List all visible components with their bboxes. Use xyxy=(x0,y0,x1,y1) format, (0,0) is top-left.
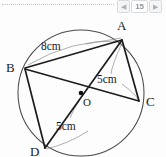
pager-next-icon[interactable]: ▶ xyxy=(149,0,162,13)
geometry-svg: A B C D O 8cm 5cm 5cm xyxy=(0,13,166,157)
measure-label-ac: 5cm xyxy=(97,73,117,85)
measure-label-ab: 8cm xyxy=(41,40,61,52)
pagination-control[interactable]: ◀ 15 ▶ xyxy=(117,0,162,13)
vertex-label-b: B xyxy=(6,60,15,75)
center-label-o: O xyxy=(83,96,91,108)
pager-page-number[interactable]: 15 xyxy=(131,0,148,13)
top-chrome-strip: ◀ 15 ▶ xyxy=(0,0,166,13)
chord-ab xyxy=(25,40,122,68)
leader-arc-od-lower xyxy=(46,131,88,149)
dotted-divider xyxy=(2,4,114,5)
vertex-label-c: C xyxy=(146,94,155,109)
center-point-dot xyxy=(79,91,84,96)
chord-ac xyxy=(122,40,139,101)
pager-prev-icon[interactable]: ◀ xyxy=(117,0,130,13)
vertex-label-a: A xyxy=(117,18,127,33)
figure-page: ◀ 15 ▶ A B xyxy=(0,0,166,157)
measure-label-od: 5cm xyxy=(56,120,76,132)
vertex-label-d: D xyxy=(30,144,39,157)
geometry-figure: A B C D O 8cm 5cm 5cm xyxy=(0,13,166,157)
